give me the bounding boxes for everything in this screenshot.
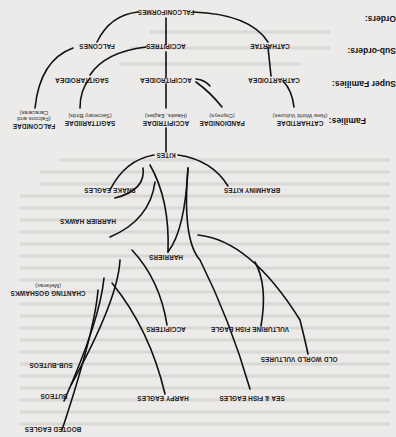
superfamily-sagittaroidea: SAGITTAROIDEA bbox=[55, 77, 109, 84]
suborder-accipitres: ACCIPITRES bbox=[146, 43, 186, 50]
taxonomy-diagram-page: Orders: Sub-orders: Super Families: Fami… bbox=[0, 0, 396, 437]
group-snake-eagles: SNAKE EAGLES bbox=[84, 187, 136, 194]
pandionidae-common: (Ospreys) bbox=[209, 113, 235, 119]
group-sub-buteos: SUB-BUTEOS bbox=[29, 362, 73, 369]
bleed-through-text bbox=[20, 32, 390, 424]
group-chanting-goshawks: CHANTING GOSHAWKS bbox=[10, 290, 86, 297]
group-sea-fish-eagles: SEA & FISH EAGLES bbox=[219, 395, 285, 402]
family-falconidae: FALCONIDAE bbox=[12, 123, 55, 130]
falconidae-common-2: Caracaras) bbox=[20, 110, 49, 116]
group-harpy-eagles: HARPY EAGLES bbox=[137, 395, 189, 402]
family-accipitridae: ACCIPITRIDAE bbox=[142, 120, 189, 127]
family-cathartidae: CATHARTIDAE bbox=[276, 120, 323, 127]
sagittariidae-common: (Secretary Birds) bbox=[68, 113, 112, 119]
row-label-super-families: Super Families: bbox=[332, 79, 396, 89]
falconiformes-classification-diagram: Orders: Sub-orders: Super Families: Fami… bbox=[0, 0, 396, 437]
group-vulturine-fish-eagle: VULTURINE FISH EAGLE bbox=[210, 326, 289, 333]
cathartidae-common: (New World Vultures) bbox=[273, 113, 328, 119]
group-buteos: BUTEOS bbox=[40, 393, 68, 400]
chanting-goshawks-genus: (Melierax) bbox=[35, 283, 61, 289]
suborder-cathartae: CATHARTAE bbox=[250, 43, 290, 50]
group-old-world-vultures: OLD WORLD VULTURES bbox=[260, 356, 338, 363]
row-labels: Orders: Sub-orders: Super Families: Fami… bbox=[329, 14, 396, 126]
group-harrier-hawks: HARRIER HAWKS bbox=[59, 218, 116, 225]
falconidae-common-1: (Falcons and bbox=[17, 116, 51, 122]
superfamily-cathartoidea: CATHARTOIDEA bbox=[248, 77, 300, 84]
group-harriers: HARRIERS bbox=[148, 254, 183, 261]
row-label-sub-orders: Sub-orders: bbox=[347, 46, 396, 56]
suborder-falcones: FALCONES bbox=[79, 43, 115, 50]
row-label-families: Families: bbox=[329, 116, 366, 126]
superfamily-accipitroidea: ACCIPITROIDEA bbox=[140, 77, 192, 84]
order-falconiformes: FALCONIFORMES bbox=[137, 9, 194, 16]
row-label-orders: Orders: bbox=[365, 14, 396, 24]
group-kites: KITES bbox=[156, 152, 176, 159]
family-pandionidae: PANDIONIDAE bbox=[199, 120, 245, 127]
family-sagittariidae: SAGITTARIIDAE bbox=[64, 120, 115, 127]
group-brahminy-kites: BRAHMINY KITES bbox=[223, 187, 280, 194]
accipitridae-common: (Hawks, Eagles) bbox=[145, 113, 187, 119]
group-booted-eagles: BOOTED EAGLES bbox=[24, 426, 81, 433]
group-accipiters: ACCIPITERS bbox=[146, 326, 186, 333]
